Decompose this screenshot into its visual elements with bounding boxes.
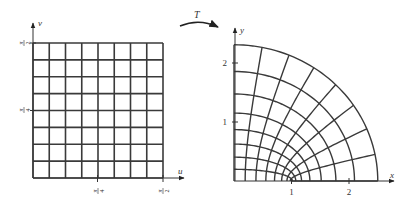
- svg-text:π: π: [18, 108, 24, 112]
- v-tick-pi-over-2: π 2: [18, 40, 31, 46]
- elliptic-grid: [234, 45, 378, 181]
- y-axis-label: y: [239, 25, 244, 35]
- y-tick-label-2: 2: [223, 58, 228, 68]
- curved-arrow-icon: [180, 22, 218, 27]
- svg-text:2: 2: [164, 190, 170, 193]
- transform-label: T: [194, 9, 201, 20]
- svg-text:π: π: [92, 189, 98, 193]
- svg-text:4: 4: [25, 109, 31, 112]
- transform-arrow: T: [180, 9, 218, 27]
- x-tick-label-1: 1: [289, 187, 294, 197]
- u-axis-label: u: [178, 166, 183, 176]
- svg-text:π: π: [18, 41, 24, 45]
- uv-grid: [33, 43, 163, 178]
- transformation-diagram: v u π 2 π 4 π 4 π 2 T: [0, 0, 415, 208]
- svg-text:2: 2: [25, 42, 31, 45]
- x-tick-label-2: 2: [347, 187, 352, 197]
- u-tick-pi-over-4: π 4: [92, 188, 105, 194]
- uv-domain-panel: v u π 2 π 4 π 4 π 2: [18, 18, 185, 194]
- v-tick-pi-over-4: π 4: [18, 107, 31, 113]
- svg-text:4: 4: [99, 190, 105, 193]
- xy-image-panel: y x 1 2 1 2: [223, 25, 395, 197]
- svg-text:π: π: [157, 189, 163, 193]
- y-tick-label-1: 1: [223, 117, 228, 127]
- x-axis-label: x: [389, 170, 394, 180]
- v-axis-label: v: [38, 18, 42, 28]
- u-tick-pi-over-2: π 2: [157, 188, 170, 194]
